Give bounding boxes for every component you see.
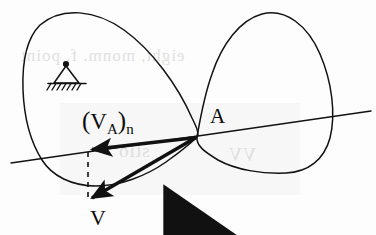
velocity-base-letter: V [90,207,106,229]
normal-velocity-close-paren: ) [118,107,126,134]
normal-velocity-label: (V A)n [82,108,134,137]
pin-support [47,61,86,90]
pin-support-hatching [47,84,81,91]
normal-velocity-component-subscript: n [126,121,134,137]
diagram-strokes [0,0,376,235]
velocity-vector-symbol: V [90,207,106,229]
point-label-A: A [210,104,226,129]
normal-velocity-vector-symbol: V [90,110,107,133]
left-body-outline [23,13,198,186]
normal-velocity-open-paren: ( [82,107,90,134]
pin-support-triangle [54,66,79,83]
normal-velocity-base-letter: V [90,110,107,133]
diagram-canvas: eight, monm. f. point stio VV [0,0,376,235]
normal-velocity-point-subscript: A [107,121,118,137]
velocity-label: V [90,207,106,229]
right-body-outline [197,13,333,173]
